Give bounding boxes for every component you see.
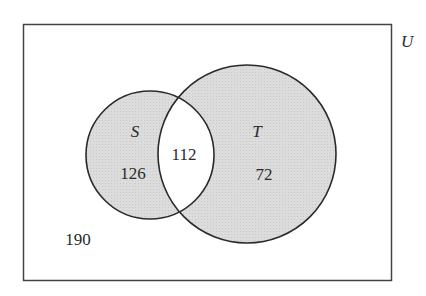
set-t-label: T (252, 122, 263, 141)
s-only-count: 126 (120, 164, 146, 183)
outside-count: 190 (65, 230, 91, 249)
intersection-count: 112 (172, 145, 197, 164)
set-s-label: S (131, 122, 140, 141)
venn-diagram: U S T 126 112 72 190 (0, 0, 426, 296)
universe-label: U (401, 32, 415, 51)
t-only-count: 72 (256, 165, 273, 184)
